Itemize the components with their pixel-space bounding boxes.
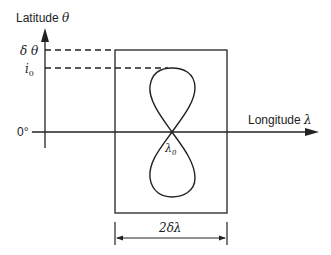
arrow-right-icon xyxy=(305,128,319,136)
delta-theta-label: δ θ xyxy=(20,44,39,58)
arrow-left-icon xyxy=(116,236,123,241)
longitude-label: Longitude λ xyxy=(248,113,312,127)
zero-degree-label: 0° xyxy=(17,125,29,139)
ground-track-diagram: Latitude θ δ θ i0 0° Longitude λ λ0 2δλ xyxy=(0,0,331,255)
arrow-right-icon xyxy=(219,236,226,241)
latitude-axis xyxy=(41,28,49,148)
longitude-axis xyxy=(32,128,319,136)
arrow-up-icon xyxy=(41,28,49,42)
i0-label: i0 xyxy=(25,62,34,78)
two-delta-lambda-label: 2δλ xyxy=(158,221,181,235)
latitude-label: Latitude θ xyxy=(16,11,70,25)
lambda0-label: λ0 xyxy=(164,142,177,157)
